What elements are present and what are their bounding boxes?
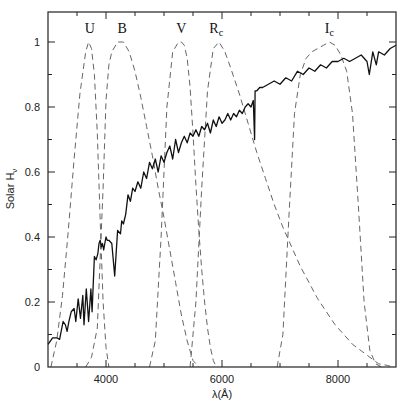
x-axis-label: λ(Å) xyxy=(212,388,232,400)
x-tick-label: 6000 xyxy=(210,373,234,385)
band-label-b: B xyxy=(118,21,127,36)
y-tick-label: 1 xyxy=(34,36,40,48)
y-tick-label: 0 xyxy=(34,361,40,373)
x-tick-label: 4000 xyxy=(94,373,118,385)
band-label-v: V xyxy=(176,21,186,36)
y-tick-label: 0.4 xyxy=(25,231,40,243)
y-tick-label: 0.6 xyxy=(25,166,40,178)
y-tick-label: 0.8 xyxy=(25,101,40,113)
y-tick-label: 0.2 xyxy=(25,296,40,308)
band-label-u: U xyxy=(85,21,95,36)
chart-canvas: 40006000800000.20.40.60.81 UBVRcIc λ(Å) … xyxy=(0,0,406,407)
x-tick-label: 8000 xyxy=(326,373,350,385)
